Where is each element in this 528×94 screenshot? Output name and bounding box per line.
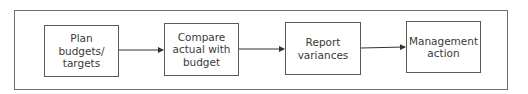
edges-layer (0, 0, 528, 94)
arrow-report-to-action (361, 47, 405, 48)
